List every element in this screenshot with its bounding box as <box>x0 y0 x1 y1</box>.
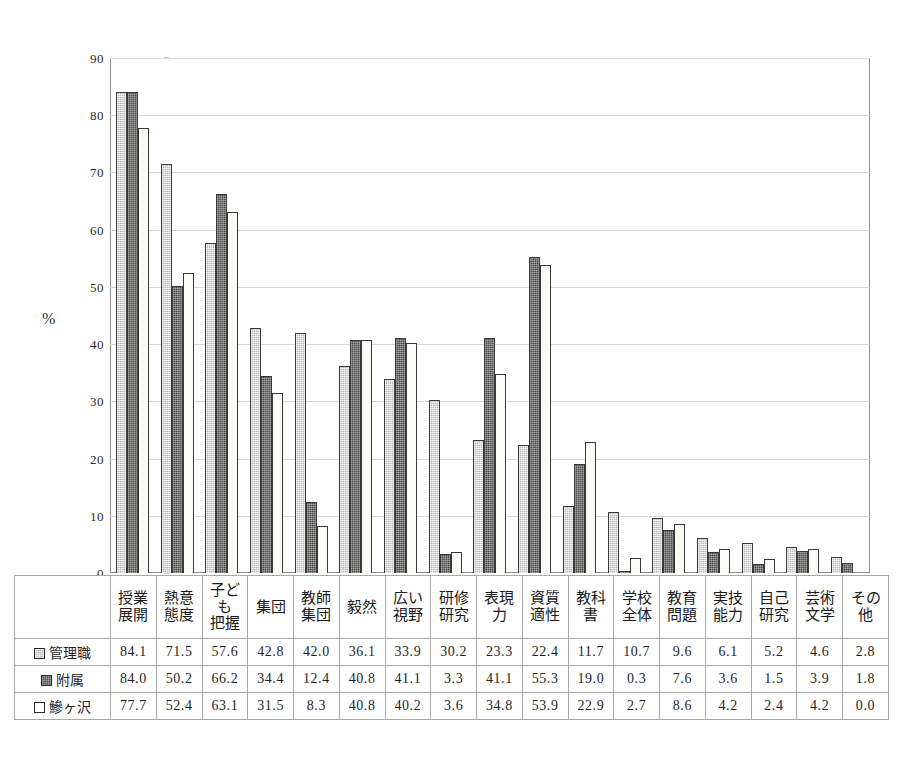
bar <box>451 552 462 573</box>
table-column-header-line: 表現 <box>477 590 522 607</box>
table-cell-value: 4.2 <box>797 693 843 720</box>
table-cell-value: 41.1 <box>385 666 431 693</box>
bar <box>306 502 317 573</box>
table-cell-value: 31.5 <box>248 693 294 720</box>
table-column-header: 集団 <box>248 576 294 639</box>
bar <box>608 512 619 573</box>
bar-group <box>781 58 826 573</box>
table-cell-value: 3.3 <box>431 666 477 693</box>
table-column-header: その他 <box>843 576 889 639</box>
bar <box>764 559 775 573</box>
bar <box>630 558 641 573</box>
table-cell-value: 3.6 <box>431 693 477 720</box>
table-cell-value: 7.6 <box>660 666 706 693</box>
table-column-header-line: 教育 <box>660 590 705 607</box>
table-column-header-line: 教科 <box>569 590 614 607</box>
table-cell-value: 8.6 <box>660 693 706 720</box>
y-axis-tick-label: 90 <box>90 52 104 65</box>
bar-group <box>378 58 423 573</box>
table-column-header: 授業展開 <box>111 576 157 639</box>
bar-group <box>736 58 781 573</box>
table-column-header-line: 研修 <box>431 590 476 607</box>
bar-series-container <box>110 58 870 573</box>
table-cell-value: 52.4 <box>156 693 202 720</box>
table-column-header: 教師集団 <box>294 576 340 639</box>
bar <box>663 530 674 573</box>
legend-row-label[interactable]: 附属 <box>15 666 111 693</box>
table-column-header-line: 熱意 <box>157 590 202 607</box>
bar-group <box>691 58 736 573</box>
bar-group <box>199 58 244 573</box>
table-cell-value: 40.8 <box>339 666 385 693</box>
table-column-header-line: 毅然 <box>340 599 385 616</box>
table-column-header-line: 教師 <box>294 590 339 607</box>
y-axis-tick-label: 70 <box>90 166 104 179</box>
bar <box>585 442 596 573</box>
table-column-header-line: 資質 <box>523 590 568 607</box>
table-column-header: 熱意態度 <box>156 576 202 639</box>
bar <box>786 547 797 573</box>
table-column-header: 芸術文学 <box>797 576 843 639</box>
table-cell-value: 0.3 <box>614 666 660 693</box>
table-column-header-line: 自己 <box>752 590 797 607</box>
table-header-row: 授業展開熱意態度子ども把握集団教師集団毅然広い視野研修研究表現力資質適性教科書学… <box>15 576 889 639</box>
bar-group <box>557 58 602 573</box>
table-cell-value: 30.2 <box>431 639 477 666</box>
legend-series-name: 鰺ヶ沢 <box>49 696 91 716</box>
chart-page: % 9080706050403020100 授業展開熱意態度子ども把握集団教師集… <box>0 0 903 759</box>
table-column-header: 学校全体 <box>614 576 660 639</box>
table-column-header: 実技能力 <box>705 576 751 639</box>
table-cell-value: 9.6 <box>660 639 706 666</box>
table-cell-value: 55.3 <box>522 666 568 693</box>
bar <box>842 563 853 573</box>
table-row: 管理職84.171.557.642.842.036.133.930.223.32… <box>15 639 889 666</box>
table-cell-value: 5.2 <box>751 639 797 666</box>
table-column-header: 自己研究 <box>751 576 797 639</box>
table-column-header: 広い視野 <box>385 576 431 639</box>
bar <box>216 194 227 573</box>
bar <box>272 393 283 573</box>
bar-group <box>155 58 200 573</box>
table-cell-value: 22.4 <box>522 639 568 666</box>
legend-row-label[interactable]: 鰺ヶ沢 <box>15 693 111 720</box>
bar-group <box>468 58 513 573</box>
y-axis-tick-label: 20 <box>90 452 104 465</box>
bar <box>361 340 372 573</box>
table-cell-value: 2.4 <box>751 693 797 720</box>
table-cell-value: 34.4 <box>248 666 294 693</box>
y-axis-tick-label: 50 <box>90 280 104 293</box>
table-cell-value: 42.8 <box>248 639 294 666</box>
plot-area <box>110 58 870 573</box>
bar <box>808 549 819 573</box>
bar <box>116 92 127 573</box>
table-cell-value: 19.0 <box>568 666 614 693</box>
table-cell-value: 0.0 <box>843 693 889 720</box>
table-cell-value: 42.0 <box>294 639 340 666</box>
table-column-header: 子ども把握 <box>202 576 248 639</box>
table-column-header-line: 全体 <box>614 607 659 624</box>
bar <box>619 571 630 573</box>
bar <box>473 440 484 573</box>
legend-row-label[interactable]: 管理職 <box>15 639 111 666</box>
y-axis-tick-label: 60 <box>90 223 104 236</box>
table-cell-value: 1.5 <box>751 666 797 693</box>
legend-swatch-icon <box>34 702 45 713</box>
table-column-header-line: 問題 <box>660 607 705 624</box>
table-cell-value: 50.2 <box>156 666 202 693</box>
table-column-header-line: 適性 <box>523 607 568 624</box>
table-column-header-line: 集団 <box>294 607 339 624</box>
table-cell-value: 4.6 <box>797 639 843 666</box>
table-cell-value: 22.9 <box>568 693 614 720</box>
table-column-header-line: 視野 <box>386 607 431 624</box>
bar <box>652 518 663 573</box>
table-column-header-line: 把握 <box>203 615 248 632</box>
legend-swatch-icon <box>41 675 52 686</box>
bar <box>127 92 138 573</box>
table-cell-value: 1.8 <box>843 666 889 693</box>
table-cell-value: 10.7 <box>614 639 660 666</box>
table-column-header: 研修研究 <box>431 576 477 639</box>
table-cell-value: 12.4 <box>294 666 340 693</box>
table-column-header-line: 展開 <box>111 607 156 624</box>
bar <box>495 374 506 573</box>
table-column-header-line: 実技 <box>706 590 751 607</box>
